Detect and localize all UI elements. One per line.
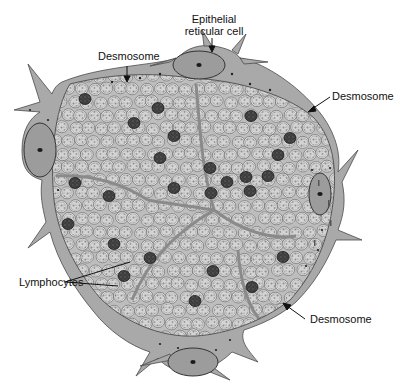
lymphocyte bbox=[197, 304, 210, 316]
lymphocyte bbox=[237, 305, 250, 317]
lymphocyte bbox=[243, 160, 256, 172]
lymphocyte bbox=[121, 199, 134, 211]
lymphocyte bbox=[67, 330, 80, 342]
lymphocyte bbox=[101, 110, 114, 122]
lymphocyte bbox=[304, 330, 317, 342]
lymphocyte bbox=[121, 148, 134, 160]
lymphocyte bbox=[173, 148, 186, 160]
lymphocyte bbox=[250, 123, 263, 135]
reticular-cell-nucleus-top bbox=[173, 51, 225, 79]
lymphocyte bbox=[101, 160, 114, 172]
lymphocyte bbox=[290, 252, 303, 264]
lymphocyte bbox=[210, 253, 223, 265]
lymphocyte bbox=[269, 134, 282, 146]
lymphocyte bbox=[205, 110, 218, 122]
lymphocyte bbox=[277, 199, 290, 211]
reticular-cell-nucleus-bottom bbox=[168, 348, 218, 376]
lymphocyte bbox=[68, 303, 81, 315]
lymphocyte bbox=[210, 95, 223, 107]
lymphocyte bbox=[61, 290, 74, 302]
label-epithelial-line1: Epithelial bbox=[184, 13, 244, 25]
label-epithelial-reticular-cell: Epithelial reticular cell bbox=[184, 13, 244, 37]
lymphocyte bbox=[321, 291, 334, 303]
lymphocyte bbox=[61, 161, 74, 173]
lymphocyte bbox=[171, 277, 184, 289]
lymphocyte bbox=[108, 201, 121, 213]
lymphocyte bbox=[68, 148, 81, 160]
lymphocyte bbox=[324, 266, 337, 278]
lymphocyte bbox=[87, 136, 100, 148]
lymphocyte bbox=[74, 317, 87, 329]
lymphocyte bbox=[94, 199, 107, 211]
lymphocyte bbox=[204, 290, 217, 302]
lymphocyte bbox=[295, 238, 308, 250]
lymphocyte bbox=[93, 226, 106, 238]
lymphocyte bbox=[62, 109, 75, 121]
lymphocyte bbox=[230, 238, 243, 250]
dark-lymphocyte bbox=[205, 188, 217, 199]
lymphocyte bbox=[87, 187, 100, 199]
lymphocyte bbox=[140, 290, 153, 302]
lymphocyte bbox=[126, 240, 139, 252]
label-desmosome-right: Desmosome bbox=[332, 90, 394, 102]
lymphocyte bbox=[75, 160, 88, 172]
lymphocyte bbox=[239, 95, 252, 107]
lymphocyte bbox=[328, 279, 341, 291]
lymphocyte bbox=[146, 201, 159, 213]
lymphocyte bbox=[76, 83, 89, 95]
lymphocyte bbox=[102, 265, 115, 277]
lymphocyte bbox=[56, 121, 69, 133]
lymphocyte bbox=[178, 109, 191, 121]
lymphocyte bbox=[50, 318, 63, 330]
lymphocyte bbox=[62, 318, 75, 330]
lymphocyte bbox=[146, 226, 159, 238]
lymphocyte bbox=[275, 279, 288, 291]
lymphocyte bbox=[191, 240, 204, 252]
lymphocyte bbox=[308, 83, 321, 95]
lymphocyte bbox=[62, 135, 75, 147]
lymphocyte bbox=[258, 110, 271, 122]
lymphocyte bbox=[95, 123, 108, 135]
lymphocyte bbox=[265, 200, 278, 212]
lymphocyte bbox=[141, 83, 154, 95]
lymphocyte bbox=[206, 214, 219, 226]
lymphocyte bbox=[94, 329, 107, 341]
lymphocyte bbox=[238, 201, 251, 213]
lymphocyte bbox=[74, 110, 87, 122]
lymphocyte bbox=[179, 187, 192, 199]
dark-lymphocyte bbox=[277, 252, 289, 263]
lymphocyte bbox=[88, 161, 101, 173]
lymphocyte bbox=[116, 212, 129, 224]
lymphocyte bbox=[119, 226, 132, 238]
lymphocyte bbox=[283, 238, 296, 250]
lymphocyte bbox=[108, 96, 121, 108]
label-desmosome-bottom: Desmosome bbox=[310, 313, 372, 325]
lymphocyte bbox=[147, 123, 160, 135]
lymphocyte bbox=[206, 135, 219, 147]
lymphocyte bbox=[187, 253, 200, 265]
lymphocyte bbox=[161, 303, 174, 315]
lymphocyte bbox=[230, 188, 243, 200]
lymphocyte bbox=[283, 212, 296, 224]
dark-lymphocyte bbox=[128, 118, 140, 129]
lymphocyte bbox=[257, 290, 270, 302]
dark-lymphocyte bbox=[272, 150, 284, 161]
lymphocyte bbox=[154, 212, 167, 224]
lymphocyte bbox=[109, 251, 122, 263]
lymphocyte bbox=[133, 173, 146, 185]
lymphocyte bbox=[252, 199, 265, 211]
lymphocyte bbox=[101, 135, 114, 147]
lymphocyte bbox=[336, 135, 349, 147]
lymphocyte bbox=[304, 148, 317, 160]
lymphocyte bbox=[336, 110, 349, 122]
lymphocyte bbox=[336, 291, 349, 303]
lymphocyte bbox=[107, 278, 120, 290]
lymphocyte bbox=[304, 252, 317, 264]
dark-lymphocyte bbox=[245, 111, 257, 122]
lymphocyte bbox=[81, 149, 94, 161]
lymphocyte bbox=[250, 329, 263, 341]
lymphocyte bbox=[276, 173, 289, 185]
lymphocyte bbox=[321, 160, 334, 172]
lymphocyte bbox=[115, 134, 128, 146]
lymphocyte bbox=[132, 199, 145, 211]
